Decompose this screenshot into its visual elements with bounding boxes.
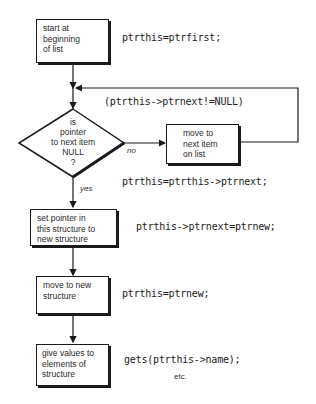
etc-note: etc.	[174, 372, 187, 381]
code-move-new: ptrthis=ptrnew;	[122, 288, 209, 299]
step-set-pointer: set pointer in this structure to new str…	[30, 209, 117, 246]
code-set-pointer: ptrthis->ptrnext=ptrnew;	[136, 221, 276, 232]
branch-label-no: no	[127, 146, 136, 155]
code-start: ptrthis=ptrfirst;	[122, 32, 221, 43]
decision-text: is pointer to next item NULL ?	[38, 117, 108, 167]
step-move-next: move to next item on list	[166, 124, 239, 164]
step-move-new: move to new structure	[36, 276, 109, 314]
code-move-next: ptrthis=ptrthis->ptrnext;	[122, 176, 268, 187]
step-give-values: give values to elements of structure	[36, 344, 109, 386]
branch-label-yes: yes	[80, 184, 92, 193]
code-give-values: gets(ptrthis->name);	[124, 354, 240, 365]
loop-condition: (ptrthis->ptrnext!=NULL)	[104, 96, 244, 107]
step-start: start at beginning of list	[36, 19, 109, 63]
flowchart: start at beginning of list ptrthis=ptrfi…	[0, 0, 316, 404]
